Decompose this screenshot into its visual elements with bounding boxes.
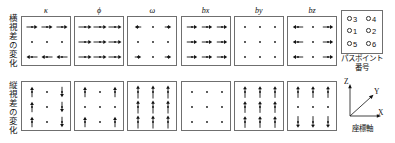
legend-point-marker-icon bbox=[347, 41, 352, 46]
vector-head bbox=[60, 94, 64, 97]
legend-point-number: 5 bbox=[353, 40, 357, 49]
vector-head bbox=[293, 25, 296, 29]
pass-point-legend-box: 341256 bbox=[341, 10, 383, 54]
pass-point-dot bbox=[191, 91, 193, 93]
pass-point-dot bbox=[312, 26, 314, 28]
legend-pass-point-5: 5 bbox=[347, 41, 357, 49]
pass-point-dot bbox=[46, 91, 48, 93]
vector-head bbox=[113, 87, 117, 90]
vector-head bbox=[243, 86, 247, 89]
vector-head bbox=[88, 55, 91, 59]
vector-head bbox=[103, 25, 106, 29]
vector-head bbox=[64, 25, 67, 29]
vector-head bbox=[88, 25, 91, 29]
vector-head bbox=[60, 124, 64, 127]
pass-point-dot bbox=[312, 41, 314, 43]
vector-head bbox=[273, 86, 277, 89]
legend-point-number: 6 bbox=[372, 40, 376, 49]
row-label-horizontal-parallax: 横視差の変化 bbox=[3, 14, 17, 68]
pass-point-dot bbox=[99, 121, 101, 123]
vector-head bbox=[258, 86, 262, 89]
legend-pass-point-4: 4 bbox=[366, 16, 376, 24]
vector-head bbox=[330, 25, 333, 29]
vector-head bbox=[41, 55, 44, 59]
vector-head bbox=[136, 101, 140, 104]
legend-point-marker-icon bbox=[347, 28, 352, 33]
pass-point-dot bbox=[31, 41, 33, 43]
panel-vectors bbox=[22, 17, 72, 67]
panel--row1: κ bbox=[21, 16, 71, 66]
pass-point-dot bbox=[152, 26, 154, 28]
vector-head bbox=[258, 101, 262, 104]
pass-point-dot bbox=[61, 41, 63, 43]
panel-vectors bbox=[75, 17, 125, 67]
panel--row2 bbox=[21, 81, 71, 131]
panel-vectors bbox=[22, 82, 72, 132]
vector-head bbox=[49, 25, 52, 29]
vector-head bbox=[60, 109, 64, 112]
vector-head bbox=[136, 86, 140, 89]
panel-title-1: ϕ bbox=[75, 6, 123, 16]
vector-head bbox=[103, 40, 106, 44]
vector-head bbox=[151, 101, 155, 104]
legend-caption-line2: 番号 bbox=[331, 64, 393, 73]
parallax-vector-figure: 横視差の変化 縦視差の変化 κϕωbxbybz 341256 パスポイント 番号… bbox=[0, 0, 395, 143]
legend-pass-point-3: 3 bbox=[347, 16, 357, 24]
axis-label-z: Z bbox=[344, 78, 349, 86]
pass-point-dot bbox=[206, 106, 208, 108]
vector-head bbox=[243, 116, 247, 119]
vector-head bbox=[194, 55, 197, 59]
panel-vectors bbox=[128, 17, 178, 67]
vector-head bbox=[34, 25, 37, 29]
panel-vectors bbox=[128, 82, 178, 132]
legend-pass-point-2: 2 bbox=[366, 28, 376, 36]
vector-head bbox=[30, 87, 34, 90]
legend-point-number: 2 bbox=[372, 27, 376, 36]
vector-head bbox=[138, 55, 141, 59]
pass-point-dot bbox=[274, 26, 276, 28]
panel-by-row2 bbox=[234, 81, 284, 131]
axis-label-y: Y bbox=[374, 88, 379, 96]
pass-point-dot bbox=[152, 56, 154, 58]
pass-point-dot bbox=[46, 106, 48, 108]
panel-title-3: bx bbox=[182, 6, 230, 16]
pass-point-dot bbox=[114, 106, 116, 108]
vector-head bbox=[326, 125, 330, 128]
vector-head bbox=[168, 55, 171, 59]
vector-head bbox=[88, 40, 91, 44]
panel-bx-row1: bx bbox=[181, 16, 231, 66]
pass-point-dot bbox=[99, 106, 101, 108]
pass-point-dot bbox=[221, 121, 223, 123]
legend-point-number: 1 bbox=[353, 27, 357, 36]
pass-point-dot bbox=[244, 26, 246, 28]
panel--row2 bbox=[127, 81, 177, 131]
pass-point-dot bbox=[221, 106, 223, 108]
vector-head bbox=[83, 117, 87, 120]
vector-head bbox=[258, 116, 262, 119]
pass-point-dot bbox=[327, 106, 329, 108]
vector-head bbox=[209, 25, 212, 29]
pass-point-dot bbox=[84, 106, 86, 108]
vector-head bbox=[118, 40, 121, 44]
vector-head bbox=[311, 125, 315, 128]
vector-head bbox=[273, 101, 277, 104]
pass-point-dot bbox=[137, 41, 139, 43]
panel--row1: ϕ bbox=[74, 16, 124, 66]
pass-point-dot bbox=[312, 56, 314, 58]
panel-vectors bbox=[182, 17, 232, 67]
pass-point-dot bbox=[206, 121, 208, 123]
pass-point-dot bbox=[46, 121, 48, 123]
pass-point-dot bbox=[274, 56, 276, 58]
vector-head bbox=[296, 86, 300, 89]
vector-head bbox=[56, 55, 59, 59]
pass-point-dot bbox=[206, 91, 208, 93]
pass-point-dot bbox=[167, 41, 169, 43]
panel-title-0: κ bbox=[22, 6, 70, 16]
vector-head bbox=[103, 55, 106, 59]
pass-point-dot bbox=[297, 106, 299, 108]
legend-point-marker-icon bbox=[366, 16, 371, 21]
vector-head bbox=[83, 87, 87, 90]
legend-point-number: 4 bbox=[372, 15, 376, 24]
vector-head bbox=[194, 40, 197, 44]
pass-point-dot bbox=[312, 106, 314, 108]
